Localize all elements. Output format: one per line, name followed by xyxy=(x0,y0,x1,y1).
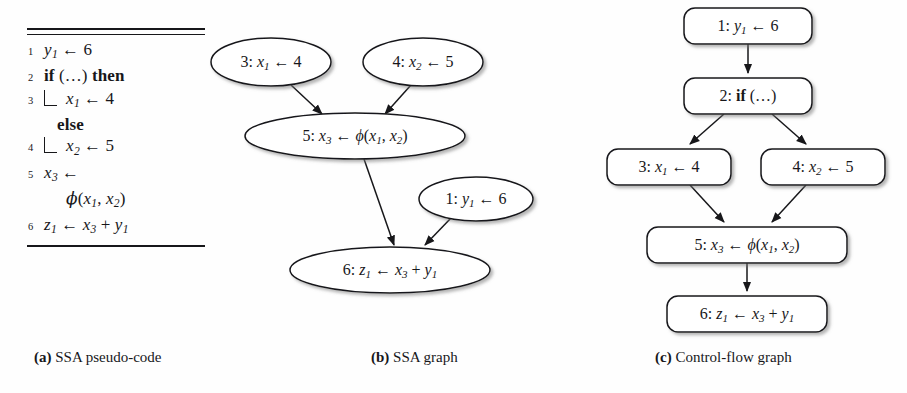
ssa-graph-edges xyxy=(291,85,452,245)
cfg-node-3[interactable]: 3: x1 ← 4 xyxy=(607,149,731,185)
edge-n1-n6 xyxy=(425,217,452,245)
caption-a: (a) SSA pseudo-code xyxy=(34,349,162,366)
caption-c-marker: (c) xyxy=(655,349,672,365)
figure-ssa-representations: 1 y1 ← 6 2 if (…) then 3 x1 ← 4 else 4 x… xyxy=(0,0,907,393)
ssa-node-3-label: 3: x1 ← 4 xyxy=(240,53,301,72)
ssa-node-6-label: 6: z1 ← x3 + y1 xyxy=(343,261,437,280)
caption-c: (c) Control-flow graph xyxy=(655,349,792,366)
cfg-node-5[interactable]: 5: x3 ← ϕ(x1, x2) xyxy=(647,227,847,263)
ssa-node-6[interactable]: 6: z1 ← x3 + y1 xyxy=(290,247,490,293)
cfg-node-6[interactable]: 6: z1 ← x3 + y1 xyxy=(667,296,827,332)
cfg-node-3-label: 3: x1 ← 4 xyxy=(638,158,699,177)
cfg-node-2[interactable]: 2: if (…) xyxy=(684,78,812,114)
ssa-graph-nodes: 3: x1 ← 4 4: x2 ← 5 5: x3 ← ϕ(x1, x2) 1:… xyxy=(211,38,533,293)
ssa-node-1[interactable]: 1: y1 ← 6 xyxy=(419,177,533,221)
caption-c-text: Control-flow graph xyxy=(675,349,791,365)
graphs-canvas: 3: x1 ← 4 4: x2 ← 5 5: x3 ← ϕ(x1, x2) 1:… xyxy=(0,0,907,393)
ssa-node-4[interactable]: 4: x2 ← 5 xyxy=(363,38,483,86)
edge-n3-n5 xyxy=(291,85,322,114)
edge-n5-n6 xyxy=(364,159,394,245)
caption-b-marker: (b) xyxy=(371,349,389,365)
cfg-node-6-label: 6: z1 ← x3 + y1 xyxy=(700,305,794,324)
caption-a-text: SSA pseudo-code xyxy=(55,349,161,365)
caption-b-text: SSA graph xyxy=(393,349,458,365)
cfg-node-5-label: 5: x3 ← ϕ(x1, x2) xyxy=(694,236,799,255)
cfg-node-2-label: 2: if (…) xyxy=(720,87,777,105)
cfg-node-4-label: 4: x2 ← 5 xyxy=(792,158,853,177)
caption-a-marker: (a) xyxy=(34,349,52,365)
ssa-node-4-label: 4: x2 ← 5 xyxy=(392,53,453,72)
caption-b: (b) SSA graph xyxy=(371,349,458,366)
cfg-node-1[interactable]: 1: y1 ← 6 xyxy=(684,8,812,44)
edge-n4-n5 xyxy=(385,85,411,114)
edge-b4-b5 xyxy=(772,185,806,222)
ssa-node-5-label: 5: x3 ← ϕ(x1, x2) xyxy=(302,127,407,146)
ssa-node-1-label: 1: y1 ← 6 xyxy=(445,190,506,209)
cfg-node-4[interactable]: 4: x2 ← 5 xyxy=(761,149,885,185)
edge-b3-b5 xyxy=(690,185,724,222)
cfg-nodes: 1: y1 ← 6 2: if (…) 3: x1 ← 4 4: x2 ← 5 … xyxy=(607,8,885,332)
ssa-node-5[interactable]: 5: x3 ← ϕ(x1, x2) xyxy=(245,113,465,159)
ssa-node-3[interactable]: 3: x1 ← 4 xyxy=(211,38,331,86)
edge-b2-b3 xyxy=(690,114,724,144)
edge-b2-b4 xyxy=(772,114,806,144)
cfg-node-1-label: 1: y1 ← 6 xyxy=(717,17,778,36)
